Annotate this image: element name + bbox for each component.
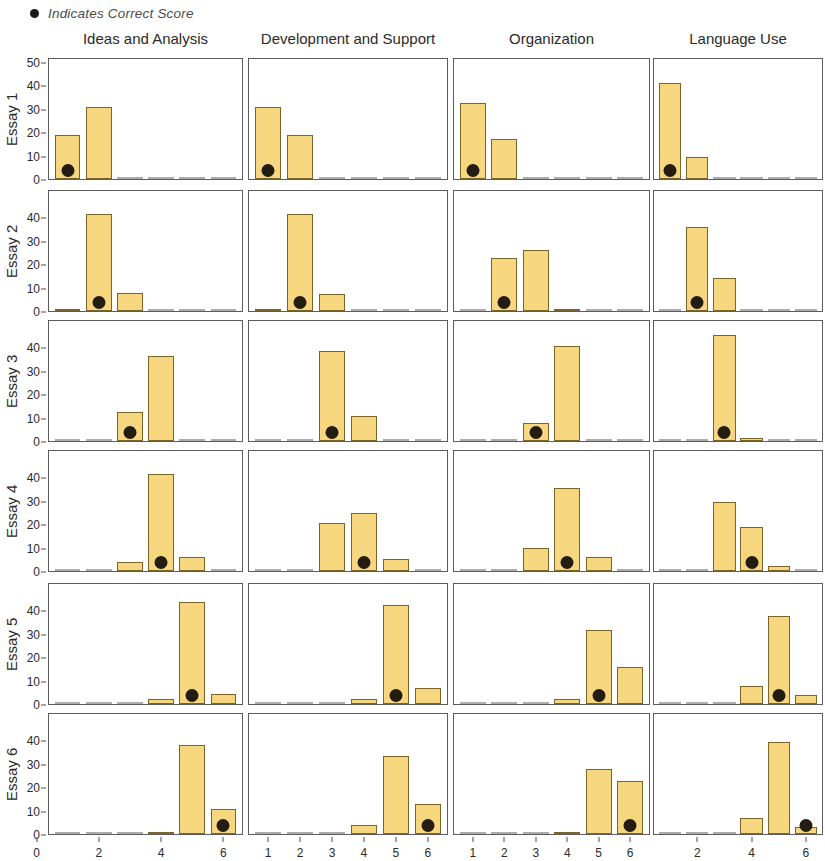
bar-score-6 xyxy=(211,694,237,704)
y-tick-label: 20 xyxy=(27,651,40,665)
y-tick-label: 30 xyxy=(27,758,40,772)
correct-score-dot-icon xyxy=(262,164,275,177)
bar-score-3 xyxy=(319,523,345,571)
panel-r4-c2 xyxy=(248,450,448,572)
plot-area xyxy=(49,584,242,704)
bar-score-2 xyxy=(86,439,112,441)
correct-score-dot-icon xyxy=(772,689,785,702)
x-tick-label: 4 xyxy=(748,846,755,860)
panel-r6-c4 xyxy=(653,713,823,835)
bar-score-2 xyxy=(491,832,517,834)
y-tick-label: 20 xyxy=(27,781,40,795)
y-tick-mark xyxy=(41,288,46,289)
x-tick-mark xyxy=(805,837,806,842)
bar-score-2 xyxy=(287,832,313,834)
column-header-3: Organization xyxy=(453,30,650,47)
y-tick-label: 20 xyxy=(27,388,40,402)
x-tick-mark xyxy=(598,837,599,842)
x-tick-label: 6 xyxy=(220,846,227,860)
bar-score-3 xyxy=(713,177,735,179)
plot-area xyxy=(654,191,822,311)
bar-score-2 xyxy=(686,569,708,571)
bar-score-5 xyxy=(768,177,790,179)
bar-score-6 xyxy=(617,439,643,441)
y-tick-mark xyxy=(41,133,46,134)
bar-score-2 xyxy=(287,439,313,441)
bar-score-1 xyxy=(55,439,81,441)
x-tick-label: 6 xyxy=(424,846,431,860)
y-tick-mark xyxy=(41,442,46,443)
bar-score-2 xyxy=(491,702,517,704)
x-axis-col-3: 123456 xyxy=(453,837,650,861)
bar-score-1 xyxy=(659,439,681,441)
bar-score-5 xyxy=(586,177,612,179)
x-tick-mark xyxy=(567,837,568,842)
plot-area xyxy=(249,59,447,179)
correct-score-dot-icon xyxy=(529,426,542,439)
y-tick-label: 0 xyxy=(33,305,40,319)
y-tick-mark xyxy=(41,218,46,219)
x-tick-mark xyxy=(395,837,396,842)
bar-score-4 xyxy=(740,309,762,311)
plot-area xyxy=(49,191,242,311)
y-tick-mark xyxy=(41,572,46,573)
bar-score-3 xyxy=(117,562,143,571)
correct-score-dot-icon xyxy=(498,296,511,309)
bar-score-5 xyxy=(383,177,409,179)
bar-score-6 xyxy=(795,177,817,179)
bar-score-5 xyxy=(179,745,205,834)
y-tick-mark xyxy=(41,548,46,549)
x-tick-label: 4 xyxy=(158,846,165,860)
plot-area xyxy=(454,584,649,704)
x-tick-label: 3 xyxy=(532,846,539,860)
plot-area xyxy=(249,714,447,834)
panel-r1-c3 xyxy=(453,58,650,180)
bar-score-4 xyxy=(148,309,174,311)
y-axis-row-4: 010203040 xyxy=(0,450,46,572)
x-axis-col-2: 123456 xyxy=(248,837,448,861)
y-tick-mark xyxy=(41,741,46,742)
bar-score-6 xyxy=(415,309,441,311)
x-tick-label: 5 xyxy=(393,846,400,860)
panel-r4-c1 xyxy=(48,450,243,572)
x-tick-mark xyxy=(268,837,269,842)
plot-area xyxy=(654,714,822,834)
x-tick-mark xyxy=(751,837,752,842)
bar-score-1 xyxy=(255,309,281,311)
bar-score-1 xyxy=(55,702,81,704)
bar-score-6 xyxy=(211,309,237,311)
plot-area xyxy=(654,59,822,179)
correct-score-dot-icon xyxy=(421,819,434,832)
bar-score-4 xyxy=(740,686,762,704)
plot-area xyxy=(654,584,822,704)
plot-area xyxy=(454,714,649,834)
panel-r3-c4 xyxy=(653,320,823,442)
y-tick-label: 0 xyxy=(33,565,40,579)
x-tick-mark xyxy=(98,837,99,842)
y-tick-label: 20 xyxy=(27,518,40,532)
panel-r3-c1 xyxy=(48,320,243,442)
column-headers: Ideas and AnalysisDevelopment and Suppor… xyxy=(0,30,825,56)
panel-r3-c3 xyxy=(453,320,650,442)
bar-score-3 xyxy=(319,702,345,704)
x-tick-mark xyxy=(427,837,428,842)
x-tick-label: 2 xyxy=(297,846,304,860)
y-tick-label: 40 xyxy=(27,211,40,225)
bar-score-4 xyxy=(740,818,762,834)
x-tick-label: 0 xyxy=(33,846,40,860)
y-tick-label: 10 xyxy=(27,542,40,556)
panel-r5-c3 xyxy=(453,583,650,705)
plot-area xyxy=(249,191,447,311)
bar-score-6 xyxy=(415,688,441,704)
x-tick-label: 3 xyxy=(329,846,336,860)
y-tick-mark xyxy=(41,265,46,266)
panel-r6-c2 xyxy=(248,713,448,835)
y-tick-mark xyxy=(41,86,46,87)
bar-score-4 xyxy=(148,699,174,704)
y-tick-label: 0 xyxy=(33,173,40,187)
bar-score-1 xyxy=(255,702,281,704)
bar-score-5 xyxy=(383,439,409,441)
correct-score-dot-icon xyxy=(155,556,168,569)
y-tick-mark xyxy=(41,241,46,242)
bar-score-2 xyxy=(287,135,313,179)
